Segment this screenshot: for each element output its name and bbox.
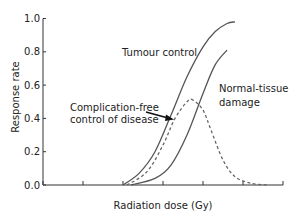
complication-free-label-line2: control of disease	[70, 114, 159, 125]
complication-free-label-line1: Complication-free	[70, 102, 159, 113]
normal-tissue-label-line2: damage	[219, 97, 260, 108]
normal-tissue-label-line1: Normal-tissue	[219, 83, 288, 94]
arrowhead-icon	[165, 115, 174, 122]
y-tick-label: 0.2	[24, 146, 40, 157]
y-axis-label: Response rate	[10, 61, 21, 133]
y-tick-label: 0.8	[24, 46, 40, 57]
tumour-control-label: Tumour control	[121, 47, 197, 58]
x-axis-label: Radiation dose (Gy)	[114, 200, 213, 211]
y-tick-label: 0.4	[24, 113, 40, 124]
response-rate-chart: 0.00.20.40.60.81.0 Radiation dose (Gy) R…	[0, 0, 299, 215]
y-tick-label: 0.6	[24, 80, 40, 91]
y-tick-label: 0.0	[24, 180, 40, 191]
y-tick-label: 1.0	[24, 13, 40, 24]
